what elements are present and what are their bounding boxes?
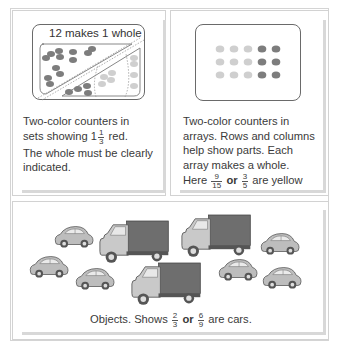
cars-and-trucks-illustration bbox=[12, 201, 329, 311]
sets-caption-line3: The whole must be clearly bbox=[23, 146, 163, 161]
arrays-panel-shadow bbox=[180, 190, 326, 193]
sets-panel-shadow-right bbox=[163, 20, 166, 193]
objects-panel-shadow bbox=[22, 332, 326, 335]
arrays-caption-line1: Two-color counters in bbox=[183, 114, 328, 129]
car-icon bbox=[76, 269, 114, 290]
sets-panel-shadow bbox=[22, 190, 166, 193]
sets-caption-line1: Two-color counters in bbox=[23, 114, 163, 129]
fraction-two-thirds: 23 bbox=[172, 312, 178, 329]
car-icon bbox=[30, 257, 68, 278]
sets-counters-illustration bbox=[32, 24, 145, 100]
fraction-six-ninths: 69 bbox=[198, 312, 204, 329]
truck-icon bbox=[182, 215, 250, 257]
car-icon bbox=[263, 268, 301, 289]
sets-caption-line4: indicated. bbox=[23, 160, 163, 175]
car-icon bbox=[219, 260, 257, 281]
array-counters-illustration bbox=[195, 24, 301, 101]
fraction-three-fifths: 35 bbox=[242, 173, 248, 190]
truck-icon bbox=[132, 263, 200, 305]
arrays-caption: Two-color counters in arrays. Rows and c… bbox=[183, 114, 328, 190]
mixed-number-whole: 1 bbox=[91, 130, 97, 142]
arrays-caption-line2: arrays. Rows and columns bbox=[183, 129, 328, 144]
sets-caption: Two-color counters in sets showing 113 r… bbox=[23, 114, 163, 175]
fraction-nine-fifteenths: 915 bbox=[211, 173, 222, 190]
sets-caption-line2: sets showing 113 red. bbox=[23, 129, 163, 146]
car-icon bbox=[55, 227, 93, 248]
objects-caption: Objects. Shows 23 or 69 are cars. bbox=[90, 312, 252, 329]
arrays-caption-line4: array makes a whole. bbox=[183, 158, 328, 173]
car-icon bbox=[261, 234, 299, 255]
arrays-caption-line5: Here 915 or 35 are yellow bbox=[183, 173, 328, 190]
truck-icon bbox=[100, 221, 168, 263]
mixed-number-fraction: 13 bbox=[98, 129, 104, 146]
arrays-caption-line3: help show parts. Each bbox=[183, 143, 328, 158]
